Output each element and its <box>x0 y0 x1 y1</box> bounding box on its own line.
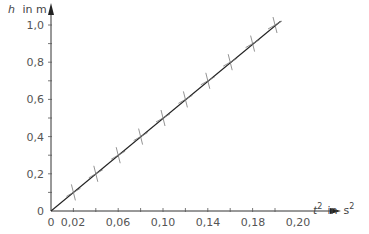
svg-text:0,20: 0,20 <box>286 216 311 229</box>
svg-text:0,2: 0,2 <box>27 168 45 181</box>
x-axis-label: t2ins2 <box>313 202 354 217</box>
svg-text:0,18: 0,18 <box>241 216 266 229</box>
svg-text:0: 0 <box>48 216 55 229</box>
svg-text:0,6: 0,6 <box>27 93 45 106</box>
svg-text:0,14: 0,14 <box>196 216 221 229</box>
svg-text:0,8: 0,8 <box>27 56 45 69</box>
svg-text:1,0: 1,0 <box>27 19 45 32</box>
svg-text:0,4: 0,4 <box>27 131 45 144</box>
y-axis-label: h in m <box>8 3 47 16</box>
chart-canvas: 00,020,060,100,140,180,2000,20,40,60,81,… <box>0 0 369 234</box>
svg-text:0,02: 0,02 <box>61 216 86 229</box>
svg-text:0: 0 <box>37 205 44 218</box>
axes <box>48 3 341 214</box>
tick-labels: 00,020,060,100,140,180,2000,20,40,60,81,… <box>27 19 311 229</box>
svg-text:0,06: 0,06 <box>106 216 131 229</box>
svg-text:0,10: 0,10 <box>151 216 176 229</box>
